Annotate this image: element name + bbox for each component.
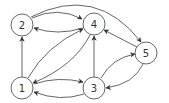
- edge-4-to-2: [34, 28, 83, 32]
- graph-canvas: 1 2 3 4 5: [0, 0, 169, 103]
- edge-1-to-4: [28, 29, 83, 78]
- edges: [22, 5, 143, 98]
- node-4-label: 4: [91, 19, 97, 30]
- node-2-label: 2: [19, 20, 25, 31]
- node-5: 5: [135, 42, 157, 64]
- nodes: 1 2 3 4 5: [11, 13, 157, 99]
- node-2: 2: [11, 14, 33, 36]
- edge-5-to-4: [104, 30, 137, 47]
- node-1: 1: [11, 77, 33, 99]
- node-3-label: 3: [91, 83, 97, 94]
- edge-3-to-5: [101, 54, 135, 78]
- node-3: 3: [83, 77, 105, 99]
- node-1-label: 1: [19, 83, 25, 94]
- node-5-label: 5: [143, 48, 149, 59]
- node-4: 4: [83, 13, 105, 35]
- edge-1-to-3: [34, 79, 83, 84]
- edge-3-to-1: [34, 92, 84, 98]
- edge-5-to-3: [106, 64, 143, 88]
